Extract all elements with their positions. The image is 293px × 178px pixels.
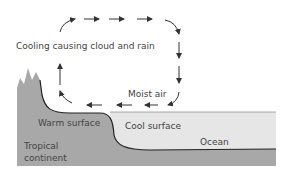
label-ocean: Ocean bbox=[200, 137, 229, 148]
ocean-area bbox=[110, 112, 276, 152]
label-tropical: Tropical bbox=[24, 141, 58, 152]
label-cool-surface: Cool surface bbox=[125, 121, 181, 132]
label-cooling: Cooling causing cloud and rain bbox=[16, 41, 155, 52]
label-warm-surface: Warm surface bbox=[38, 118, 100, 129]
label-continent: continent bbox=[24, 153, 67, 164]
label-moist-air: Moist air bbox=[128, 89, 167, 100]
